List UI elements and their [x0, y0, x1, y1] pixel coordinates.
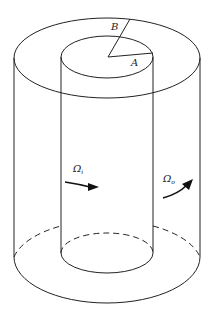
outer-cylinder-bottom-back-right	[153, 226, 200, 257]
label-a: A	[130, 57, 138, 68]
inner-cylinder-bottom-front	[61, 253, 153, 273]
inner-cylinder-bottom-back	[61, 233, 153, 253]
coaxial-cylinders-diagram: B A Ωi Ωo	[0, 0, 212, 315]
omega-inner-arrow-icon	[65, 182, 99, 191]
outer-cylinder-top-rim	[14, 18, 200, 98]
omega-outer-label: Ωo	[162, 173, 175, 185]
outer-cylinder-bottom-front	[14, 257, 200, 303]
outer-cylinder-bottom-back-left	[14, 226, 61, 257]
label-b: B	[110, 21, 118, 32]
omega-inner-label: Ωi	[72, 163, 83, 175]
cylinder-geometry	[14, 18, 200, 303]
inner-cylinder-top-rim	[61, 36, 153, 78]
